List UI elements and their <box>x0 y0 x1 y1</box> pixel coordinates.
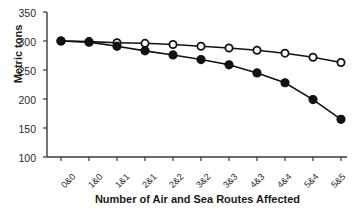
data-series-layer <box>57 37 345 123</box>
data-point-filled-circles <box>225 61 233 69</box>
data-point-open-circles <box>253 47 260 54</box>
data-point-open-circles <box>225 44 232 51</box>
plot-area <box>0 0 359 214</box>
data-point-filled-circles <box>169 51 177 59</box>
data-point-open-circles <box>337 59 344 66</box>
data-point-filled-circles <box>141 47 149 55</box>
data-point-filled-circles <box>253 69 261 77</box>
data-point-filled-circles <box>337 115 345 123</box>
axis-lines <box>43 12 347 161</box>
data-point-open-circles <box>141 40 148 47</box>
data-point-open-circles <box>309 54 316 61</box>
data-point-open-circles <box>281 50 288 57</box>
data-point-filled-circles <box>113 42 121 50</box>
data-point-filled-circles <box>197 56 205 64</box>
data-point-open-circles <box>197 43 204 50</box>
data-point-filled-circles <box>309 96 317 104</box>
data-point-filled-circles <box>281 79 289 87</box>
data-point-open-circles <box>169 41 176 48</box>
data-point-filled-circles <box>85 38 93 46</box>
line-chart: Metric tons Number of Air and Sea Routes… <box>0 0 359 214</box>
data-point-filled-circles <box>57 37 65 45</box>
series-line-filled-circles <box>61 41 341 119</box>
